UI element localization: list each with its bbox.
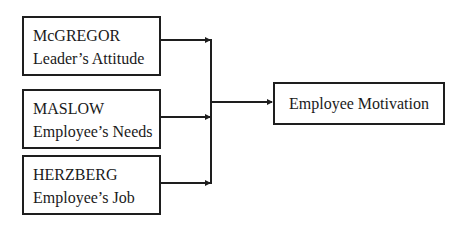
herzberg-subtitle: Employee’s Job xyxy=(33,186,159,209)
maslow-box: MASLOW Employee’s Needs xyxy=(22,89,161,149)
mcgregor-box: McGREGOR Leader’s Attitude xyxy=(22,16,161,76)
mcgregor-title: McGREGOR xyxy=(33,24,159,47)
mcgregor-subtitle: Leader’s Attitude xyxy=(33,47,159,70)
employee-motivation-box: Employee Motivation xyxy=(273,82,445,125)
herzberg-title: HERZBERG xyxy=(33,163,159,186)
employee-motivation-label: Employee Motivation xyxy=(289,95,429,113)
maslow-subtitle: Employee’s Needs xyxy=(33,120,159,143)
maslow-title: MASLOW xyxy=(33,97,159,120)
herzberg-box: HERZBERG Employee’s Job xyxy=(22,155,161,215)
